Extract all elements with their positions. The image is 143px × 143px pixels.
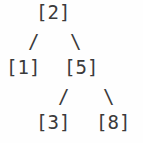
tree-edge-right-to-left: / (58, 87, 69, 106)
tree-node-right-right-grandchild: [8] (96, 113, 130, 132)
tree-edge-root-to-right: \ (70, 32, 81, 51)
tree-edge-right-to-right: \ (103, 87, 114, 106)
tree-node-root: [2] (36, 3, 70, 22)
tree-node-right-left-grandchild: [3] (36, 113, 70, 132)
tree-node-left-child: [1] (6, 58, 40, 77)
binary-tree-diagram: [2] / \ [1] [5] / \ [3] [8] (0, 0, 143, 143)
tree-node-right-child: [5] (64, 58, 98, 77)
tree-edge-root-to-left: / (28, 32, 39, 51)
